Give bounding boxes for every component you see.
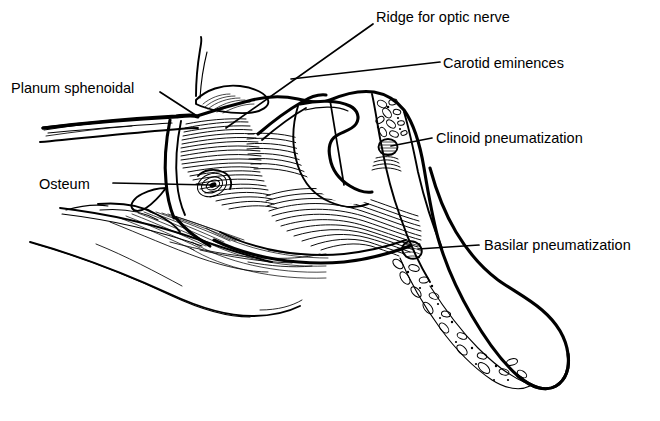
label-carotid-eminences: Carotid eminences [443,55,564,71]
sphenoid-sinus-illustration: Ridge for optic nerve Carotid eminences … [0,0,660,421]
label-clinoid-pneumatization: Clinoid pneumatization [436,130,583,146]
label-osteum: Osteum [39,176,90,192]
anatomical-figure: Ridge for optic nerve Carotid eminences … [0,0,660,421]
label-basilar-pneumatization: Basilar pneumatization [484,237,631,253]
label-ridge-for-optic-nerve: Ridge for optic nerve [376,9,510,25]
label-planum-sphenoidal: Planum sphenoidal [11,80,134,96]
